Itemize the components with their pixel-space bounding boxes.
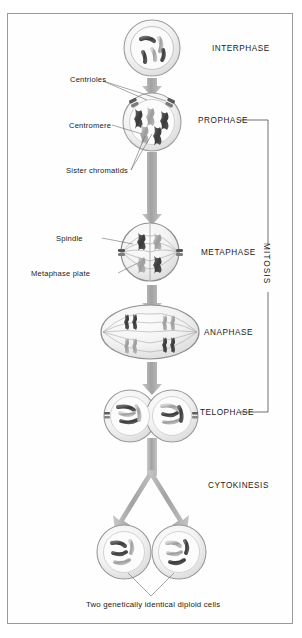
phase-label-cytokinesis: CYTOKINESIS (208, 481, 269, 490)
callout-centrioles: Centrioles (70, 75, 106, 84)
callout-sister-chromatids: Sister chromatids (66, 166, 128, 175)
cell-anaphase (101, 305, 199, 359)
mitosis-diagram: INTERPHASE PROPHASE METAPHASE ANAPHASE T… (0, 0, 302, 638)
cell-daughter-right (152, 525, 206, 579)
phase-label-interphase: INTERPHASE (212, 44, 270, 53)
cell-prophase (123, 93, 181, 151)
diagram-canvas (0, 0, 302, 638)
flow-arrow-prophase-to-metaphase (142, 152, 162, 225)
phase-label-telophase: TELOPHASE (200, 408, 254, 417)
cell-telophase (104, 390, 198, 442)
flow-arrow-telophase-to-cytokinesis (113, 438, 189, 531)
callout-spindle: Spindle (56, 234, 83, 243)
cell-daughter-left (97, 525, 151, 579)
bracket-label-mitosis: MITOSIS (262, 243, 271, 284)
phase-label-anaphase: ANAPHASE (204, 328, 253, 337)
phase-label-metaphase: METAPHASE (201, 248, 256, 257)
cell-metaphase (118, 223, 183, 281)
callout-metaphase-plate: Metaphase plate (31, 269, 90, 278)
flow-arrow-anaphase-to-telophase (142, 362, 162, 395)
callout-centromere: Centromere (69, 121, 111, 130)
cell-interphase (124, 20, 180, 76)
phase-label-prophase: PROPHASE (198, 116, 248, 125)
caption-daughter-cells: Two genetically identical diploid cells (86, 600, 220, 609)
